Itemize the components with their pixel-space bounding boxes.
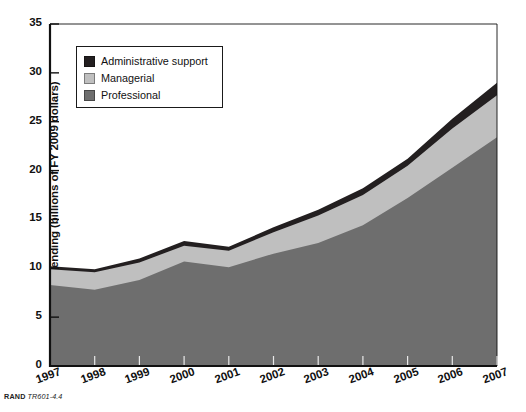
source-brand: RAND (4, 392, 26, 401)
figure-source-note: RAND TR601-4.4 (4, 392, 62, 401)
legend-label-professional: Professional (101, 89, 160, 101)
legend-swatch-administrative-support (84, 56, 95, 67)
chart-figure: Spending (billions of FY 2009 dollars) 0… (0, 0, 526, 412)
legend-swatch-managerial (84, 73, 95, 84)
legend-swatch-professional (84, 90, 95, 101)
legend-item-managerial: Managerial (84, 70, 215, 86)
legend-item-administrative-support: Administrative support (84, 53, 215, 69)
legend-label-managerial: Managerial (101, 72, 154, 84)
source-reference: TR601-4.4 (28, 392, 63, 401)
legend-item-professional: Professional (84, 87, 215, 103)
legend-label-administrative-support: Administrative support (101, 55, 208, 67)
chart-legend: Administrative support Managerial Profes… (76, 46, 223, 108)
